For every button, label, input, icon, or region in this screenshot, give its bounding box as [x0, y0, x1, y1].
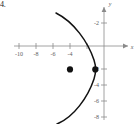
x-axis-title: x — [130, 44, 134, 50]
y-tick-label--4: -4 — [94, 82, 99, 88]
parabola-curve — [56, 13, 96, 124]
y-axis-arrow-icon — [102, 7, 107, 12]
x-tick-label--10: -10 — [15, 51, 23, 57]
focus-point-marker — [67, 66, 73, 72]
parabola-figure: 4. -10 -8 -6 -4 -2 -2 -4 -6 -8 y — [0, 0, 135, 124]
y-tick-label--6: -6 — [94, 98, 99, 104]
y-tick-label--8: -8 — [94, 114, 99, 120]
x-tick-label--6: -6 — [51, 51, 56, 57]
problem-number-label: 4. — [0, 0, 6, 9]
x-axis-arrow-icon — [123, 44, 128, 49]
x-tick-label--8: -8 — [34, 51, 39, 57]
vertex-point-marker — [92, 66, 98, 72]
coordinate-plot-svg: -10 -8 -6 -4 -2 -2 -4 -6 -8 y x — [0, 0, 135, 124]
y-tick-label-upper-2: -2 — [94, 20, 99, 26]
y-axis-title: y — [108, 1, 112, 7]
x-tick-label--4: -4 — [68, 51, 73, 57]
